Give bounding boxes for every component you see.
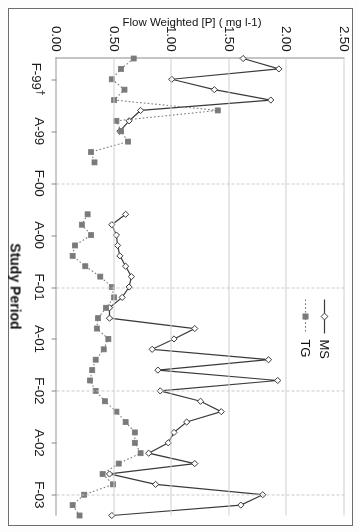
data-point-marker	[106, 337, 111, 342]
data-point-marker	[114, 232, 120, 238]
x-tick-label: A-01	[33, 326, 48, 354]
data-point-marker	[94, 358, 99, 363]
chart-core: Flow Weighted [P] ( mg l-1) 0.000.501.00…	[0, 0, 359, 532]
data-point-marker	[275, 378, 281, 384]
data-point-marker	[71, 503, 76, 508]
data-point-marker	[71, 254, 76, 259]
dagger-footnote-marker: †	[36, 90, 48, 96]
data-point-marker	[102, 347, 107, 352]
plot-area: 0.000.501.001.502.002.50F-99†A-99F-00A-0…	[56, 58, 345, 516]
x-axis-title: Study Period	[8, 58, 24, 516]
data-point-marker	[119, 129, 124, 134]
data-point-marker	[266, 357, 272, 363]
series-line	[92, 59, 219, 163]
data-point-marker	[88, 378, 93, 383]
data-point-marker	[212, 87, 218, 93]
data-point-marker	[123, 264, 129, 270]
data-point-marker	[78, 514, 83, 519]
data-point-marker	[129, 274, 135, 280]
data-point-marker	[96, 316, 101, 321]
data-point-marker	[95, 327, 100, 332]
data-point-marker	[93, 160, 98, 165]
solid-line-diamond-marker	[320, 300, 332, 334]
data-point-marker	[115, 243, 121, 249]
x-tick-label: A-00	[33, 222, 48, 250]
data-point-marker	[117, 462, 122, 467]
data-point-marker	[268, 97, 274, 103]
legend-item-ms: MS	[316, 300, 335, 359]
x-tick-label: F-99†	[30, 63, 49, 96]
data-point-marker	[120, 295, 126, 301]
data-point-marker	[155, 367, 161, 373]
data-point-marker	[139, 451, 144, 456]
data-point-marker	[123, 212, 129, 218]
data-point-marker	[119, 67, 124, 72]
data-point-marker	[114, 410, 119, 415]
data-point-marker	[133, 430, 138, 435]
data-point-marker	[198, 399, 204, 405]
data-point-marker	[184, 419, 190, 425]
data-point-marker	[126, 140, 131, 145]
legend-item-tg: TG	[297, 300, 316, 359]
y-tick-label: 0.50	[107, 27, 122, 52]
y-tick-label: 2.50	[338, 27, 353, 52]
figure-page: Flow Weighted [P] ( mg l-1) 0.000.501.00…	[0, 0, 359, 532]
data-point-marker	[114, 119, 119, 124]
y-tick-label: 2.00	[280, 27, 295, 52]
x-tick-label: A-99	[33, 118, 48, 146]
data-point-marker	[104, 306, 109, 311]
x-tick-label: F-00	[33, 170, 48, 197]
data-point-marker	[73, 243, 78, 248]
data-point-marker	[124, 420, 129, 425]
data-point-marker	[80, 223, 85, 228]
data-point-marker	[122, 88, 127, 93]
series-line	[110, 215, 278, 516]
data-point-marker	[132, 57, 137, 62]
data-point-marker	[89, 233, 94, 238]
legend-label: TG	[299, 340, 314, 358]
data-point-marker	[90, 368, 95, 373]
x-tick-label: F-02	[33, 378, 48, 405]
x-tick-label: A-02	[33, 429, 48, 457]
data-point-marker	[219, 409, 225, 415]
data-point-marker	[86, 212, 91, 217]
dotted-line-square-marker	[301, 300, 313, 334]
data-point-marker	[103, 399, 108, 404]
data-point-marker	[241, 56, 247, 62]
x-tick-label: F-03	[33, 482, 48, 509]
y-tick-label: 1.00	[165, 27, 180, 52]
data-point-marker	[192, 326, 198, 332]
data-point-marker	[276, 66, 282, 72]
data-point-marker	[98, 275, 103, 280]
data-point-marker	[216, 108, 221, 113]
data-point-marker	[101, 472, 106, 477]
series-line	[120, 59, 279, 132]
data-point-marker	[83, 264, 88, 269]
y-axis-title: Flow Weighted [P] ( mg l-1)	[40, 17, 345, 29]
data-point-marker	[138, 108, 144, 114]
data-point-marker	[153, 482, 159, 488]
legend: MSTG	[297, 300, 335, 359]
y-tick-label: 0.00	[50, 27, 65, 52]
y-tick-label: 1.50	[222, 27, 237, 52]
data-point-marker	[89, 150, 94, 155]
data-point-marker	[192, 461, 198, 467]
legend-label: MS	[318, 340, 333, 359]
rotated-figure-container: Flow Weighted [P] ( mg l-1) 0.000.501.00…	[0, 0, 359, 532]
data-point-marker	[117, 253, 123, 259]
data-point-marker	[133, 441, 138, 446]
x-tick-label: F-01	[33, 274, 48, 301]
